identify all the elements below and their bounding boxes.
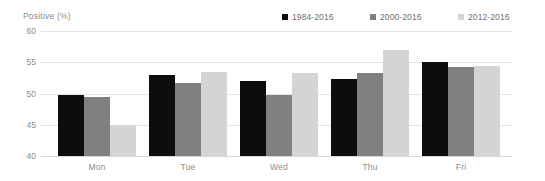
bar-fri-2000-2016[interactable]	[448, 67, 474, 156]
bar-group-mon	[58, 31, 136, 156]
x-tick-label-thu: Thu	[331, 162, 409, 172]
y-tick-label-60: 60	[22, 26, 36, 36]
bar-tue-1984-2016[interactable]	[149, 75, 175, 156]
x-tick-label-wed: Wed	[240, 162, 318, 172]
x-tick-label-fri: Fri	[422, 162, 500, 172]
plot-area	[41, 31, 512, 156]
bar-group-fri	[422, 31, 500, 156]
y-axis-title: Positive (%)	[23, 11, 71, 21]
legend-entry-0[interactable]: 1984-2016	[282, 12, 370, 22]
bar-mon-2012-2016[interactable]	[110, 125, 136, 156]
bar-chart: Positive (%) 1984-2016 2000-2016 2012-20…	[0, 0, 545, 181]
bar-wed-2000-2016[interactable]	[266, 95, 292, 156]
legend-swatch-icon-1	[370, 14, 376, 20]
bar-fri-2012-2016[interactable]	[474, 66, 500, 156]
bar-fri-1984-2016[interactable]	[422, 62, 448, 156]
legend-swatch-icon-2	[458, 14, 464, 20]
bar-tue-2012-2016[interactable]	[201, 72, 227, 156]
bar-wed-2012-2016[interactable]	[292, 73, 318, 156]
legend-label-0: 1984-2016	[292, 12, 334, 22]
y-tick-label-40: 40	[22, 151, 36, 161]
bar-group-wed	[240, 31, 318, 156]
legend-label-1: 2000-2016	[380, 12, 422, 22]
bar-mon-2000-2016[interactable]	[84, 97, 110, 156]
x-tick-label-tue: Tue	[149, 162, 227, 172]
x-tick-label-mon: Mon	[58, 162, 136, 172]
chart-legend: 1984-2016 2000-2016 2012-2016	[282, 12, 545, 22]
bar-thu-1984-2016[interactable]	[331, 79, 357, 156]
legend-entry-2[interactable]: 2012-2016	[458, 12, 545, 22]
bar-group-tue	[149, 31, 227, 156]
bar-mon-1984-2016[interactable]	[58, 95, 84, 156]
legend-swatch-icon-0	[282, 14, 288, 20]
y-tick-label-55: 55	[22, 57, 36, 67]
y-tick-label-50: 50	[22, 89, 36, 99]
bar-thu-2000-2016[interactable]	[357, 73, 383, 156]
bar-group-thu	[331, 31, 409, 156]
bar-wed-1984-2016[interactable]	[240, 81, 266, 156]
bar-tue-2000-2016[interactable]	[175, 83, 201, 156]
legend-label-2: 2012-2016	[468, 12, 510, 22]
legend-entry-1[interactable]: 2000-2016	[370, 12, 458, 22]
bar-thu-2012-2016[interactable]	[383, 50, 409, 156]
y-tick-label-45: 45	[22, 120, 36, 130]
gridline-40	[41, 156, 512, 157]
